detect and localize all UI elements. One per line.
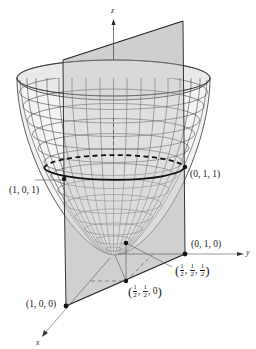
point-half-half-half xyxy=(124,241,128,245)
plane-inside-bowl xyxy=(63,21,184,179)
plane-lower xyxy=(64,167,185,306)
label-point-0-1-1: (0, 1, 1) xyxy=(190,170,220,180)
label-point-1-0-1: (1, 0, 1) xyxy=(9,186,39,196)
point-0-1-0 xyxy=(183,252,188,257)
label-point-half-half-half: ( 12, 12, 12 ) xyxy=(175,263,210,278)
point-1-0-0 xyxy=(64,304,69,309)
point-0-1-1 xyxy=(183,165,187,169)
label-point-half-half-0: ( 12, 12, 0 ) xyxy=(128,284,162,299)
point-half-half-0 xyxy=(124,279,128,283)
z-axis-label: z xyxy=(111,7,114,15)
x-axis-label: x xyxy=(36,339,40,347)
point-1-0-1 xyxy=(62,177,66,181)
y-axis-label: y xyxy=(246,249,250,257)
label-point-1-0-0: (1, 0, 0) xyxy=(26,300,56,310)
label-point-0-1-0: (0, 1, 0) xyxy=(191,240,221,250)
